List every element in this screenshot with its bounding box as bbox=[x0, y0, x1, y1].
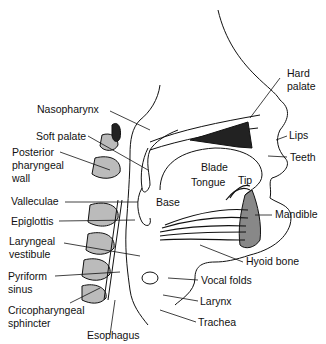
label-posterior-pharyngeal-wall-3: wall bbox=[12, 173, 30, 184]
tongue-fibers bbox=[160, 186, 250, 241]
label-posterior-pharyngeal-wall-1: Posterior bbox=[12, 147, 54, 158]
label-vocal-folds: Vocal folds bbox=[201, 275, 252, 286]
label-cricopharyngeal-2: sphincter bbox=[8, 318, 51, 329]
label-larynx: Larynx bbox=[200, 296, 232, 307]
label-soft-palate: Soft palate bbox=[36, 131, 86, 142]
label-esophagus: Esophagus bbox=[87, 330, 140, 341]
label-teeth: Teeth bbox=[290, 152, 316, 163]
mandible-bone bbox=[239, 190, 260, 248]
label-pyriform-sinus-1: Pyriform bbox=[8, 271, 47, 282]
label-epiglottis: Epiglottis bbox=[11, 216, 54, 227]
label-pyriform-sinus-2: sinus bbox=[8, 284, 33, 295]
label-hard-palate-2: palate bbox=[287, 81, 316, 92]
label-blade: Blade bbox=[201, 162, 228, 173]
label-posterior-pharyngeal-wall-2: pharyngeal bbox=[12, 160, 64, 171]
label-valleculae: Valleculae bbox=[11, 196, 59, 207]
epiglottis-contour bbox=[138, 188, 151, 225]
label-hard-palate-1: Hard bbox=[287, 68, 310, 79]
label-lips: Lips bbox=[289, 130, 308, 141]
anatomy-drawing bbox=[0, 0, 326, 344]
label-laryngeal-vestibule-1: Laryngeal bbox=[9, 236, 55, 247]
hard-palate-bone bbox=[190, 122, 252, 148]
label-base: Base bbox=[156, 197, 180, 208]
label-laryngeal-vestibule-2: vestibule bbox=[9, 249, 50, 260]
cervical-vertebrae bbox=[82, 134, 120, 303]
hyoid-bone bbox=[142, 272, 158, 284]
label-tip: Tip bbox=[238, 175, 252, 186]
label-cricopharyngeal-1: Cricopharyngeal bbox=[8, 305, 84, 316]
nasopharynx-contour bbox=[141, 130, 178, 192]
label-tongue: Tongue bbox=[191, 177, 225, 188]
soft-palate bbox=[112, 123, 121, 141]
label-trachea: Trachea bbox=[198, 317, 236, 328]
label-hyoid-bone: Hyoid bone bbox=[246, 256, 299, 267]
label-nasopharynx: Nasopharynx bbox=[37, 104, 99, 115]
label-mandible: Mandible bbox=[275, 209, 318, 220]
